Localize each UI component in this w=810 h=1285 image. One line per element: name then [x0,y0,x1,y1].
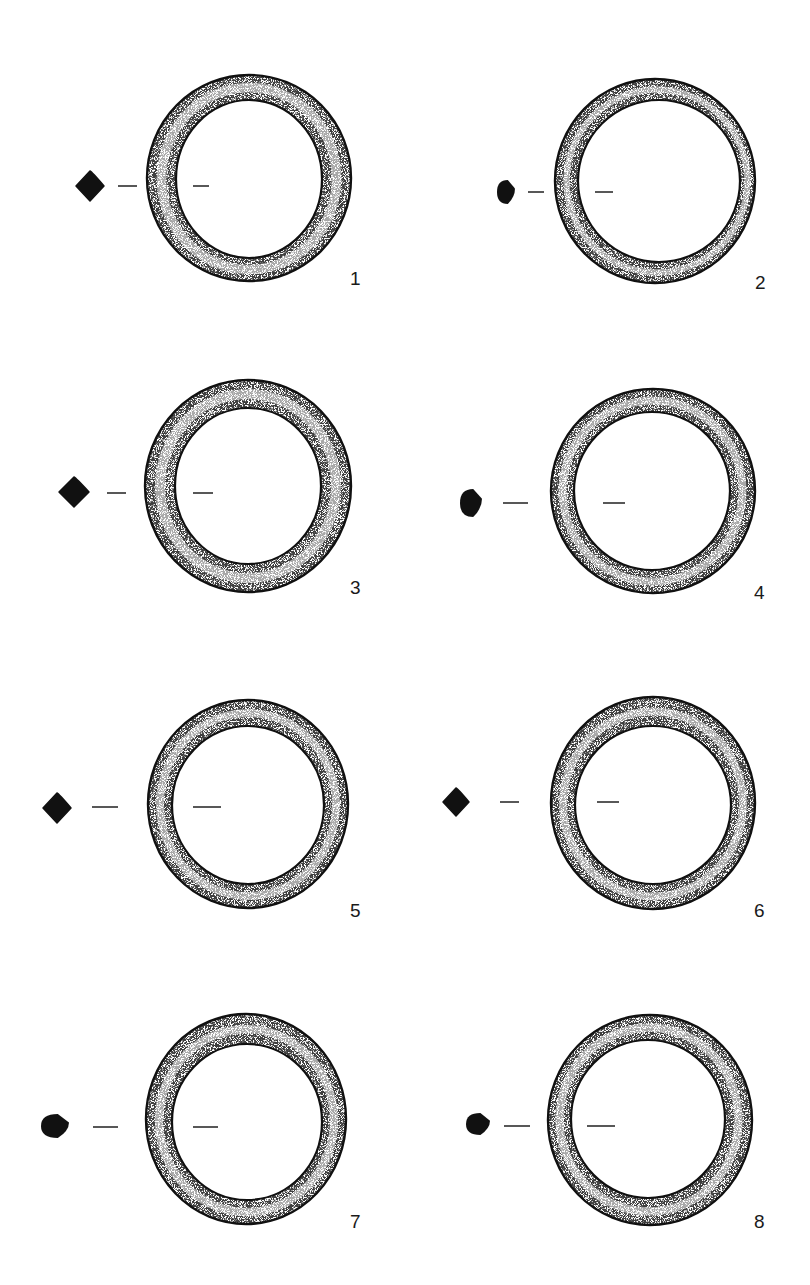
ring-number-label: 3 [350,578,361,597]
ring-outer-outline [146,1014,346,1224]
ring-figure-1 [76,75,351,281]
ring-figure-4 [460,389,755,593]
ring-inner-outline [571,1040,725,1198]
ring-figure-2 [497,79,755,283]
ring-inner-outline [172,1044,322,1200]
ring-number-label: 8 [754,1212,765,1231]
cross-section-rhombic-icon [76,171,104,201]
ring-outer-outline [148,700,348,908]
cross-section-oval-icon [497,180,515,204]
ring-highlight [563,712,743,897]
ring-highlight [159,1029,334,1212]
ring-inner-outline [176,100,322,258]
ring-number-label: 7 [350,1212,361,1231]
cross-section-oval-icon [466,1113,490,1135]
ring-figure-5 [43,700,348,908]
ring-outer-outline [551,697,755,909]
ring-highlight [162,88,337,270]
ring-number-label: 5 [350,901,361,920]
ring-outer-outline [551,389,755,593]
ring-figure-8 [466,1015,752,1225]
cross-section-oval-icon [41,1114,69,1138]
cross-section-oval-icon [460,489,482,517]
ring-highlight [563,401,743,582]
ring-inner-outline [574,412,730,570]
ring-highlight [160,713,336,896]
ring-inner-outline [575,726,731,884]
ring-highlight [560,1028,739,1212]
ring-inner-outline [578,100,740,262]
cross-section-rhombic-icon [443,788,469,816]
ring-figure-7 [41,1014,346,1224]
ring-highlight [567,90,748,273]
ring-outer-outline [555,79,755,283]
ring-number-label: 4 [754,583,765,602]
ring-inner-outline [175,408,321,564]
ring-outer-outline [548,1015,752,1225]
ring-number-label: 6 [754,901,765,920]
ring-number-label: 1 [350,269,361,288]
ring-number-label: 2 [755,273,766,292]
cross-section-rhombic-icon [43,793,71,823]
cross-section-rhombic-icon [59,477,89,507]
ring-figure-6 [443,697,755,909]
ring-outer-outline [147,75,351,281]
ring-plate-figure [0,0,810,1285]
ring-inner-outline [172,726,324,884]
ring-figure-3 [59,380,351,592]
ring-highlight [160,394,336,578]
